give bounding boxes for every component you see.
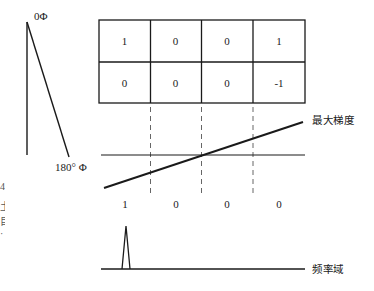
edge-fragment-1: 4: [0, 181, 5, 192]
grid-cell-r2c1: 0: [99, 62, 150, 103]
grid-cell-r2c2: 0: [150, 62, 201, 103]
grid-cell-r2c3: 0: [201, 62, 253, 103]
phase-top-label: 0Φ: [34, 10, 48, 22]
grid-cell-r1c3: 0: [201, 20, 253, 62]
frequency-domain-label: 频率域: [312, 263, 344, 275]
grid-cell-r1c4: 1: [253, 20, 305, 62]
max-gradient-label: 最大梯度: [312, 114, 354, 126]
phase-diagram: [27, 22, 69, 157]
bit-label-2: 0: [166, 198, 186, 210]
gradient-panel: [101, 122, 305, 188]
bit-label-3: 0: [217, 198, 237, 210]
bit-label-1: 1: [115, 198, 135, 210]
phase-slanted-line: [27, 22, 69, 157]
grid-cell-r1c2: 0: [150, 20, 201, 62]
grid-cell-r2c4: -1: [253, 62, 305, 103]
edge-fragment-3: 目: [0, 213, 5, 228]
phase-bottom-label: 180° Φ: [55, 161, 87, 173]
edge-fragment-4: ·: [0, 228, 5, 239]
grid-cell-r1c1: 1: [99, 20, 150, 62]
bit-label-4: 0: [269, 198, 289, 210]
edge-fragment-2: 土: [0, 198, 5, 213]
frequency-panel: [101, 226, 305, 269]
dashed-guides: [151, 107, 254, 197]
frequency-spike: [122, 226, 130, 269]
